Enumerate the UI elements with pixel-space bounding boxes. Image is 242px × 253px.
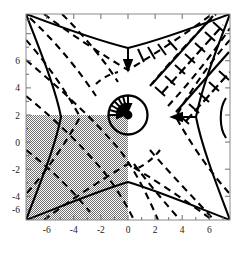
y-tick-label: -6 [12,205,20,215]
x-tick-label: 2 [153,225,158,235]
y-tick-labels: 6 4 2 0 -2 -4 -6 [12,56,20,215]
y-tick-label: -2 [12,165,20,175]
origin-dot [124,111,133,120]
contour-plot-figure: -6 -4 -2 0 2 4 6 6 4 2 0 -2 -4 -6 [0,0,242,253]
x-tick-label: 0 [126,225,131,235]
x-tick-labels: -6 -4 -2 0 2 4 6 [43,225,212,235]
y-tick-label: 6 [15,56,20,66]
y-tick-label: 4 [15,83,20,93]
shaded-quadrant [26,115,128,220]
x-tick-label: -4 [70,225,78,235]
x-tick-label: -2 [97,225,105,235]
y-tick-label: 2 [15,111,20,121]
x-tick-label: -6 [43,225,51,235]
x-tick-label: 4 [180,225,185,235]
y-tick-label: -4 [12,192,20,202]
x-tick-label: 6 [207,225,212,235]
plot-canvas: -6 -4 -2 0 2 4 6 6 4 2 0 -2 -4 -6 [0,0,242,253]
y-tick-label: 0 [15,138,20,148]
